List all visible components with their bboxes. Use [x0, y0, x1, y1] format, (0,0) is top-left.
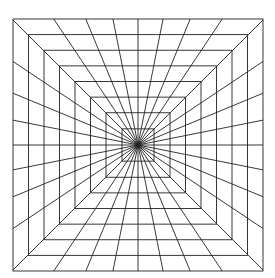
background — [0, 0, 275, 278]
tunnel-grid-illusion — [0, 0, 275, 278]
figure-container: Concentric squares with radial spokes (t… — [0, 0, 275, 278]
